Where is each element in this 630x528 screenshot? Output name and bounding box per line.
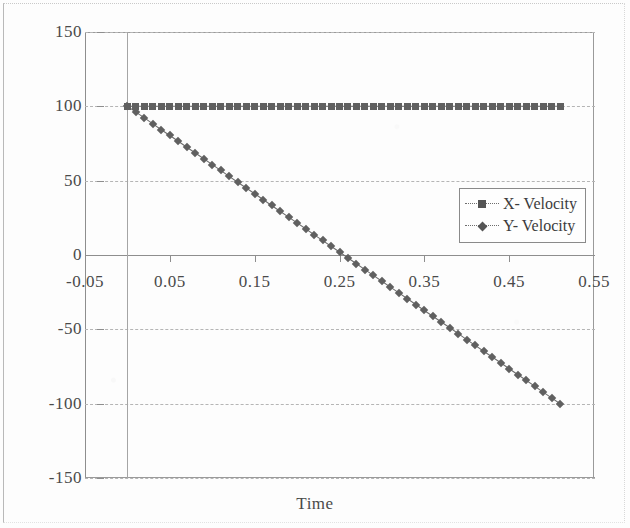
legend-label-x-velocity: X- Velocity [503, 195, 577, 213]
legend-label-y-velocity: Y- Velocity [503, 217, 575, 235]
legend-square-marker-icon [465, 198, 499, 210]
legend-item-x-velocity[interactable]: X- Velocity [465, 193, 580, 215]
x-axis-title: Time [0, 494, 630, 514]
legend-diamond-marker-icon [465, 220, 499, 232]
series-lines [0, 0, 630, 528]
legend-item-y-velocity[interactable]: Y- Velocity [465, 215, 580, 237]
chart-legend[interactable]: X- Velocity Y- Velocity [459, 188, 586, 243]
velocity-time-chart-figure: 150100500-50-100-150 -0.050.050.150.250.… [0, 0, 630, 528]
